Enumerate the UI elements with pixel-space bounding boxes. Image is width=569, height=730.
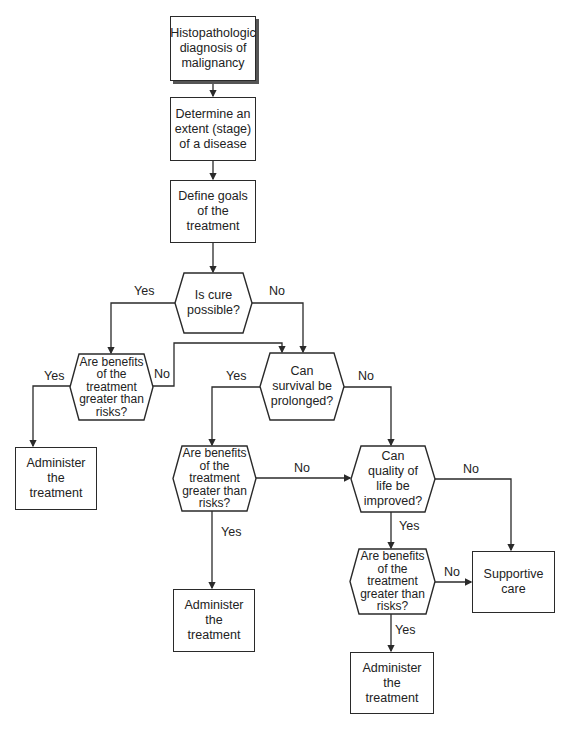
benefits3-text: Are benefits of the treatment greater th… <box>350 550 435 613</box>
benefits2-no-label: No <box>294 461 310 475</box>
administer2-box: Administer the treatment <box>173 589 255 652</box>
quality-decision: Can quality of life be improved? <box>351 446 435 512</box>
goals-box: Define goals of the treatment <box>170 180 256 243</box>
administer3-box: Administer the treatment <box>350 652 434 714</box>
quality-text: Can quality of life be improved? <box>350 449 436 509</box>
stage-text: Determine an extent (stage) of a disease <box>171 107 255 152</box>
survival-no-label: No <box>358 369 374 383</box>
administer3-text: Administer the treatment <box>351 661 433 706</box>
benefits3-yes-label: Yes <box>395 623 415 637</box>
diagnosis-box: Histopathologic diagnosis of malignancy <box>170 16 256 81</box>
goals-text: Define goals of the treatment <box>171 189 255 234</box>
supportive-care-box: Supportive care <box>472 551 555 613</box>
administer1-text: Administer the treatment <box>16 456 96 501</box>
cure-text: Is cure possible? <box>175 288 252 318</box>
benefits3-no-label: No <box>444 565 460 579</box>
benefits2-text: Are benefits of the treatment greater th… <box>173 447 256 510</box>
quality-yes-label: Yes <box>399 519 419 533</box>
survival-yes-label: Yes <box>226 369 246 383</box>
benefits2-yes-label: Yes <box>221 525 241 539</box>
quality-no-label: No <box>463 462 479 476</box>
benefits1-text: Are benefits of the treatment greater th… <box>70 356 153 419</box>
administer2-text: Administer the treatment <box>174 598 254 643</box>
benefits1-decision: Are benefits of the treatment greater th… <box>70 354 153 420</box>
benefits2-decision: Are benefits of the treatment greater th… <box>173 446 256 511</box>
benefits1-yes-label: Yes <box>44 369 64 383</box>
survival-decision: Can survival be prolonged? <box>260 353 344 420</box>
cure-decision: Is cure possible? <box>175 273 252 333</box>
cure-yes-label: Yes <box>134 284 154 298</box>
survival-text: Can survival be prolonged? <box>260 364 344 409</box>
supportive-text: Supportive care <box>473 567 554 597</box>
benefits3-decision: Are benefits of the treatment greater th… <box>350 549 435 614</box>
benefits1-no-label: No <box>154 367 170 381</box>
administer1-box: Administer the treatment <box>15 447 97 510</box>
cure-no-label: No <box>269 284 285 298</box>
stage-box: Determine an extent (stage) of a disease <box>170 97 256 161</box>
diagnosis-text: Histopathologic diagnosis of malignancy <box>170 26 255 71</box>
